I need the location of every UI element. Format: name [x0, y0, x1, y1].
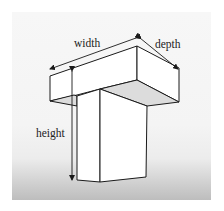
stem-front-face	[77, 89, 100, 182]
width-label: width	[74, 37, 100, 49]
stem-side-face	[100, 89, 147, 182]
height-label: height	[36, 127, 66, 140]
t-block-diagram: width depth height	[0, 0, 224, 211]
t-block	[50, 46, 179, 182]
depth-label: depth	[155, 38, 181, 51]
